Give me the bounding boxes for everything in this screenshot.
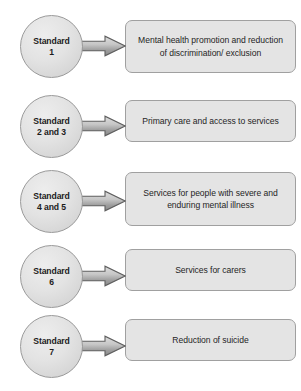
standard-circle-label-line2: 2 and 3: [37, 127, 66, 138]
standard-description-text: Services for carers: [167, 264, 254, 276]
standard-circle-label-line2: 6: [49, 277, 54, 288]
standard-description-text: Mental health promotion and reduction of…: [126, 34, 295, 59]
standard-circle-label-line1: Standard: [33, 116, 69, 127]
standard-description-box-1: Mental health promotion and reduction of…: [125, 20, 296, 73]
standard-circle-label-line1: Standard: [33, 336, 69, 347]
standard-circle-label-line2: 4 and 5: [37, 202, 66, 213]
standard-circle-1: Standard 1: [20, 15, 83, 78]
standard-circle-6: Standard 6: [20, 245, 83, 308]
footer-artifact: [0, 380, 301, 389]
standard-description-text: Primary care and access to services: [134, 115, 286, 127]
right-arrow-icon: [78, 115, 126, 137]
standard-description-box-7: Reduction of suicide: [125, 319, 296, 361]
standard-circle-4-and-5: Standard 4 and 5: [20, 170, 83, 233]
standard-circle-label-line1: Standard: [33, 191, 69, 202]
standard-circle-label-line2: 7: [49, 347, 54, 358]
standard-circle-label-line1: Standard: [33, 266, 69, 277]
right-arrow-icon: [78, 35, 126, 57]
standard-description-box-6: Services for carers: [125, 249, 296, 291]
standard-description-box-2-and-3: Primary care and access to services: [125, 100, 296, 142]
standards-flow-diagram: Standard 1 Mental health promotion and r…: [0, 0, 301, 391]
standard-description-box-4-and-5: Services for people with severe and endu…: [125, 172, 296, 226]
right-arrow-icon: [78, 335, 126, 357]
standard-circle-label-line1: Standard: [33, 36, 69, 47]
standard-circle-7: Standard 7: [20, 315, 83, 378]
right-arrow-icon: [78, 190, 126, 212]
standard-description-text: Reduction of suicide: [164, 334, 256, 346]
right-arrow-icon: [78, 265, 126, 287]
standard-circle-2-and-3: Standard 2 and 3: [20, 95, 83, 158]
standard-circle-label-line2: 1: [49, 47, 54, 58]
standard-description-text: Services for people with severe and endu…: [126, 187, 295, 212]
